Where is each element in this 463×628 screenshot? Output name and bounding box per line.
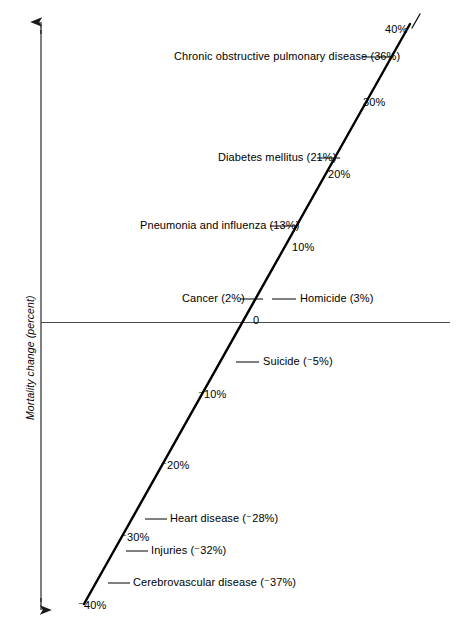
tick-label-m20: ⁻20% bbox=[161, 459, 189, 472]
mortality-change-chart: Mortality change (percent) 40% 30% 20% 1… bbox=[0, 0, 463, 628]
tick-label-m30: ⁻30% bbox=[121, 531, 149, 544]
tick-label-20: 20% bbox=[328, 168, 350, 180]
point-label-homicide: Homicide (3%) bbox=[300, 292, 373, 304]
tick-label-m10: ⁻10% bbox=[198, 388, 226, 401]
leader-lines bbox=[108, 57, 392, 583]
point-label-copd: Chronic obstructive pulmonary disease (3… bbox=[174, 50, 400, 62]
tick-label-0: 0 bbox=[253, 314, 259, 326]
tick-label-40: 40% bbox=[385, 23, 407, 35]
point-label-cerebrovascular: Cerebrovascular disease (⁻37%) bbox=[133, 576, 296, 589]
tick-label-30: 30% bbox=[363, 96, 385, 108]
point-label-pneumonia: Pneumonia and influenza (13%) bbox=[140, 219, 299, 231]
point-label-diabetes: Diabetes mellitus (21%) bbox=[218, 151, 336, 163]
point-label-injuries: Injuries (⁻32%) bbox=[151, 544, 226, 557]
tick-label-m40: ⁻40% bbox=[78, 599, 106, 612]
tick-label-10: 10% bbox=[292, 241, 314, 253]
chart-canvas bbox=[0, 0, 463, 628]
point-label-cancer: Cancer (2%) bbox=[182, 292, 245, 304]
y-axis-title: Mortality change (percent) bbox=[24, 295, 36, 420]
point-label-suicide: Suicide (⁻5%) bbox=[263, 355, 333, 368]
point-label-heart: Heart disease (⁻28%) bbox=[170, 512, 278, 525]
